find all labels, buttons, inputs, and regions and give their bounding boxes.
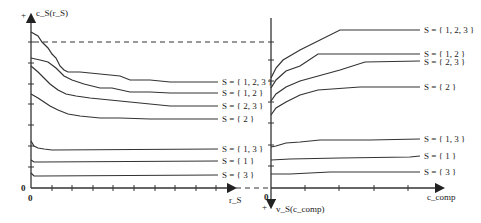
left-curve-23: [31, 66, 218, 106]
right-label-3: S = { 3 }: [424, 167, 456, 177]
left-origin-y: 0: [21, 183, 26, 193]
right-panel: S = { 1, 2, 3 } S = { 1, 2 } S = { 2, 3 …: [262, 18, 474, 214]
right-label-13: S = { 1, 3 }: [424, 134, 465, 144]
left-y-axis-label: c_S(r_S): [36, 8, 68, 18]
left-label-12: S = { 1, 2 }: [222, 88, 263, 98]
left-label-123: S = { 1, 2, 3 }: [222, 77, 272, 87]
coalition-value-diagram: S = { 1, 2, 3 } S = { 1, 2 } S = { 2, 3 …: [0, 0, 481, 223]
left-panel: S = { 1, 2, 3 } S = { 1, 2 } S = { 2, 3 …: [21, 8, 272, 205]
right-curve-1: [271, 156, 420, 160]
left-curve-123: [31, 32, 218, 82]
right-curve-12: [271, 54, 420, 88]
left-label-3: S = { 3 }: [222, 170, 254, 180]
right-label-1: S = { 1 }: [424, 151, 456, 161]
right-curve-13: [271, 139, 420, 147]
right-x-axis-label: c_comp: [427, 192, 456, 202]
right-curve-23: [271, 61, 420, 101]
left-curve-13: [31, 141, 218, 150]
left-label-23: S = { 2, 3 }: [222, 101, 263, 111]
left-x-axis-label: r_S: [229, 195, 242, 205]
right-curve-3: [271, 172, 420, 174]
left-curve-1: [31, 160, 218, 162]
left-origin-x: 0: [28, 193, 33, 203]
right-origin-x: 0: [264, 192, 269, 202]
right-curve-2: [271, 87, 420, 115]
left-label-2: S = { 2 }: [222, 114, 254, 124]
right-y-axis-label: v_S(c_comp): [276, 204, 325, 214]
right-label-23: S = { 2, 3 }: [424, 57, 465, 67]
right-label-2: S = { 2 }: [424, 82, 456, 92]
left-curve-3: [31, 173, 218, 176]
left-label-1: S = { 1 }: [222, 156, 254, 166]
left-y-sign: +: [21, 10, 26, 20]
right-label-123: S = { 1, 2, 3 }: [424, 25, 474, 35]
right-y-sign: +: [262, 202, 267, 212]
left-label-13: S = { 1, 3 }: [222, 144, 263, 154]
